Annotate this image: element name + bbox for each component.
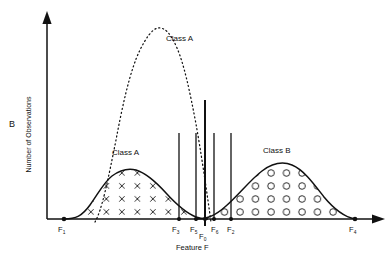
- threshold-lines: [179, 100, 231, 226]
- x-axis-label: Feature F: [176, 243, 209, 252]
- tick-marker-f2: [229, 217, 233, 221]
- class-b-solid-label: Class B: [263, 146, 291, 155]
- class-a-solid-label: Class A: [112, 148, 139, 157]
- y-axis-label: Number of Observations: [25, 80, 32, 190]
- tick-label-f4: F4: [349, 225, 357, 234]
- figure-panel-b: B Number of Observations Feature F Class…: [0, 0, 392, 266]
- panel-label: B: [9, 119, 15, 129]
- tick-label-f0: F0: [199, 232, 207, 241]
- tick-label-f2: F2: [227, 225, 235, 234]
- tick-label-f6: F6: [211, 225, 219, 234]
- y-axis: [42, 11, 51, 219]
- tick-label-f1: F1: [58, 225, 66, 234]
- tick-label-f3: F3: [172, 225, 180, 234]
- tick-label-f5: F5: [190, 225, 198, 234]
- tick-marker-f0: [203, 217, 207, 221]
- class-a-dotted-label: Class A: [166, 34, 193, 43]
- tick-marker-f6: [212, 217, 216, 221]
- tick-marker-f1: [62, 217, 67, 222]
- tick-marker-f4: [353, 217, 358, 222]
- tick-marker-f5: [194, 217, 198, 221]
- tick-marker-f3: [177, 217, 181, 221]
